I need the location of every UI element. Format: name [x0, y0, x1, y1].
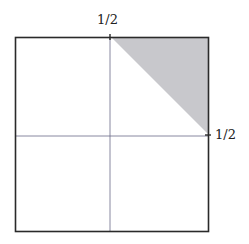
right-tick-label: 1/2 [215, 127, 236, 142]
diagram-canvas [0, 0, 249, 244]
top-tick-label: 1/2 [97, 12, 118, 27]
shaded-triangle [111, 37, 208, 134]
